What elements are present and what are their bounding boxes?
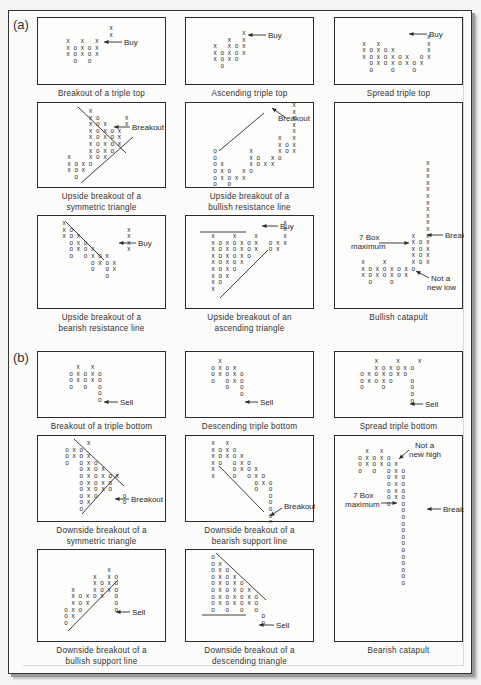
x-box-mark: x <box>377 59 381 66</box>
o-box-mark: o <box>93 592 97 599</box>
chart-box: xxxxoxoxooxoxoxooxoxoooooooSell <box>334 351 463 418</box>
caption-line: Upside breakout of an <box>185 312 314 323</box>
x-box-mark: x <box>82 166 86 173</box>
x-box-mark: x <box>235 174 239 181</box>
annotation-label: Sell <box>120 398 134 407</box>
caption-line: bullish resistance line <box>185 202 314 213</box>
o-box-mark: o <box>211 606 215 613</box>
annotation-label: Buy <box>138 239 152 248</box>
o-box-mark: o <box>84 383 88 390</box>
chart-box: xxxxxxoxoxxoxoxooBuy <box>37 17 166 85</box>
o-box-mark: o <box>397 271 401 278</box>
annotation-arrow-icon <box>245 400 258 404</box>
x-box-mark: x <box>127 245 131 252</box>
annotation-arrow-icon <box>248 33 266 37</box>
annotation-label: Breakout <box>278 114 311 123</box>
annotation-text: 7 Box <box>353 491 373 500</box>
trend-line <box>219 113 264 151</box>
o-box-mark: o <box>360 383 364 390</box>
chart-box: xxxxxoxoxxxoxoxoxoxoxoxoxoxoooBuy <box>334 17 463 85</box>
section-label-a: (a) <box>13 17 29 32</box>
x-box-mark: x <box>427 53 431 60</box>
x-box-mark: x <box>73 452 77 459</box>
chart-box: xoxooxoxooxooxoxoxoxoxoxoxooxoxooxoooxoo… <box>37 435 166 522</box>
o-box-mark: o <box>240 606 244 613</box>
x-box-mark: x <box>366 460 370 467</box>
x-box-mark: x <box>77 245 81 252</box>
x-box-mark: x <box>113 265 117 272</box>
o-box-mark: o <box>84 252 88 259</box>
panel-caption: Spread triple bottom <box>334 421 463 432</box>
o-box-mark: o <box>285 147 289 154</box>
x-box-mark: x <box>271 160 275 167</box>
panel-caption: Downside breakout of abearish support li… <box>185 525 314 547</box>
annotation-text: 7 Box <box>359 233 379 242</box>
caption-line: Breakout of a triple bottom <box>37 421 166 432</box>
o-box-mark: o <box>80 505 84 512</box>
o-box-mark: o <box>411 364 415 371</box>
o-box-mark: o <box>401 579 405 586</box>
x-box-mark: x <box>233 599 237 606</box>
x-box-mark: x <box>240 258 244 265</box>
chart-box: xxoxoxooxoxooooooSell <box>37 351 166 418</box>
annotation-arrow-icon <box>399 450 409 459</box>
o-box-mark: o <box>390 278 394 285</box>
x-box-mark: x <box>420 59 424 66</box>
o-box-mark: o <box>384 59 388 66</box>
panel-caption: Upside breakout of abearish resistance l… <box>37 312 166 334</box>
caption-line: Upside breakout of a <box>37 312 166 323</box>
annotation-label: Breakout <box>284 502 315 511</box>
x-box-mark: x <box>264 160 268 167</box>
x-box-mark: x <box>293 147 297 154</box>
o-box-mark: o <box>403 370 407 377</box>
o-box-mark: o <box>235 55 239 62</box>
caption-line: bearish resistance line <box>37 323 166 334</box>
x-box-mark: x <box>77 376 81 383</box>
annotation-arrow-icon <box>427 507 441 511</box>
x-box-mark: x <box>219 370 223 377</box>
o-box-mark: o <box>269 245 273 252</box>
o-box-mark: o <box>358 467 362 474</box>
annotation-label: Sell <box>132 608 146 617</box>
o-box-mark: o <box>218 459 222 466</box>
chart-box: ooxoxooxoxoxoxooxoxoxoxoxoxooxoxoxoooooo… <box>185 549 314 642</box>
x-box-mark: x <box>221 174 225 181</box>
o-box-mark: o <box>105 272 109 279</box>
x-box-mark: x <box>240 465 244 472</box>
o-box-mark: o <box>419 258 423 265</box>
x-box-mark: x <box>380 460 384 467</box>
o-box-mark: o <box>213 180 217 187</box>
panel-caption: Upside breakout of asymmetric triangle <box>37 191 166 213</box>
annotation-arrow-icon <box>416 271 429 278</box>
o-box-mark: o <box>79 606 83 613</box>
caption-line: Spread triple top <box>334 88 463 99</box>
annotation-arrow-icon <box>262 224 278 228</box>
x-box-mark: x <box>211 472 215 479</box>
o-box-mark: o <box>269 518 273 523</box>
caption-line: Downside breakout of a <box>185 645 314 656</box>
annotation-arrow-icon <box>104 40 122 44</box>
x-box-mark: x <box>98 259 102 266</box>
x-box-mark: x <box>62 232 66 239</box>
panel-caption: Bearish catapult <box>334 645 463 656</box>
x-box-mark: x <box>211 285 215 292</box>
annotation-label: Buy <box>124 38 138 47</box>
annotation-label: Buy <box>429 30 443 39</box>
x-box-mark: x <box>91 376 95 383</box>
o-box-mark: o <box>226 606 230 613</box>
panel-caption: Breakout of a triple bottom <box>37 421 166 432</box>
o-box-mark: o <box>375 377 379 384</box>
o-box-mark: o <box>391 66 395 73</box>
chart-box: xxxxxxxxxxxxxxoxxoxxoxxxxoxxoxoxoxoxoxox… <box>334 102 463 309</box>
chart-box: xxoxoxooxoxoxoooxooxooxooxooxooooooooooo… <box>334 435 463 642</box>
annotation-label: Breakout <box>443 505 464 514</box>
annotation-label: Sell <box>276 621 290 630</box>
x-box-mark: x <box>394 493 398 500</box>
x-box-mark: x <box>283 239 287 246</box>
o-box-mark: o <box>254 606 258 613</box>
o-box-mark: o <box>256 160 260 167</box>
annotation-label: Breakout <box>132 123 165 132</box>
x-box-mark: x <box>262 479 266 486</box>
x-box-mark: x <box>376 271 380 278</box>
x-box-mark: x <box>213 55 217 62</box>
